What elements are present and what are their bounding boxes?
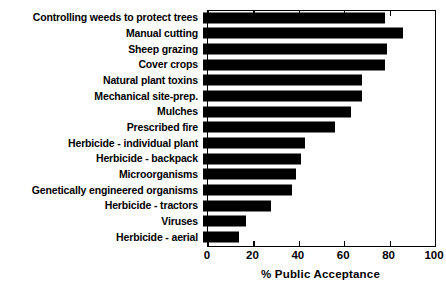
x-axis-tick-label: 80 <box>382 249 395 261</box>
chart-category-row: Microorganisms <box>0 167 446 183</box>
bar <box>203 200 271 211</box>
category-label: Herbicide - individual plant <box>0 138 203 149</box>
chart-category-row: Mulches <box>0 104 446 120</box>
category-label: Viruses <box>0 216 203 227</box>
bar-track <box>203 10 430 26</box>
x-axis-tick-label: 20 <box>246 249 259 261</box>
chart-category-row: Herbicide - individual plant <box>0 135 446 151</box>
category-label: Herbicide - tractors <box>0 200 203 211</box>
category-label: Cover crops <box>0 59 203 70</box>
x-axis-title: % Public Acceptance <box>207 268 434 280</box>
category-label: Mechanical site-prep. <box>0 91 203 102</box>
category-label: Natural plant toxins <box>0 75 203 86</box>
bar-track <box>203 229 430 245</box>
chart-category-row: Cover crops <box>0 57 446 73</box>
chart-category-row: Manual cutting <box>0 26 446 42</box>
bar <box>203 216 246 227</box>
category-label: Microorganisms <box>0 169 203 180</box>
x-axis-tick-label: 0 <box>204 249 210 261</box>
chart-category-row: Herbicide - backpack <box>0 151 446 167</box>
bar <box>203 59 385 70</box>
bar-track <box>203 41 430 57</box>
bar-track <box>203 167 430 183</box>
bar <box>203 169 296 180</box>
x-axis-tick-label: 40 <box>291 249 304 261</box>
bar <box>203 122 335 133</box>
bar <box>203 153 301 164</box>
bar <box>203 138 305 149</box>
category-label: Controlling weeds to protect trees <box>0 12 203 23</box>
bar <box>203 12 385 23</box>
chart-category-row: Controlling weeds to protect trees <box>0 10 446 26</box>
chart-category-row: Mechanical site-prep. <box>0 88 446 104</box>
bar-track <box>203 151 430 167</box>
chart-category-row: Herbicide - tractors <box>0 198 446 214</box>
bar <box>203 75 362 86</box>
chart-category-row: Herbicide - aerial <box>0 229 446 245</box>
bar <box>203 232 239 243</box>
category-label: Sheep grazing <box>0 44 203 55</box>
chart-category-row: Genetically engineered organisms <box>0 182 446 198</box>
bar-track <box>203 120 430 136</box>
chart-category-row: Natural plant toxins <box>0 73 446 89</box>
chart-category-row: Viruses <box>0 214 446 230</box>
bar-track <box>203 88 430 104</box>
category-label: Genetically engineered organisms <box>0 185 203 196</box>
x-axis-tick-label: 60 <box>337 249 350 261</box>
bar <box>203 185 292 196</box>
bar-track <box>203 26 430 42</box>
x-axis-tick-label: 100 <box>424 249 443 261</box>
bar <box>203 106 351 117</box>
bar-track <box>203 57 430 73</box>
chart-rows-area: Controlling weeds to protect treesManual… <box>0 10 446 245</box>
bar <box>203 44 387 55</box>
bar-track <box>203 182 430 198</box>
bar-track <box>203 73 430 89</box>
category-label: Manual cutting <box>0 28 203 39</box>
chart-category-row: Prescribed fire <box>0 120 446 136</box>
public-acceptance-bar-chart: Controlling weeds to protect treesManual… <box>0 0 446 292</box>
chart-category-row: Sheep grazing <box>0 41 446 57</box>
x-axis-tick-labels: 020406080100 <box>207 249 434 265</box>
category-label: Herbicide - aerial <box>0 232 203 243</box>
bar-track <box>203 104 430 120</box>
bar-track <box>203 214 430 230</box>
bar-track <box>203 135 430 151</box>
bar-track <box>203 198 430 214</box>
bar <box>203 28 403 39</box>
category-label: Mulches <box>0 106 203 117</box>
bar <box>203 91 362 102</box>
category-label: Prescribed fire <box>0 122 203 133</box>
category-label: Herbicide - backpack <box>0 153 203 164</box>
